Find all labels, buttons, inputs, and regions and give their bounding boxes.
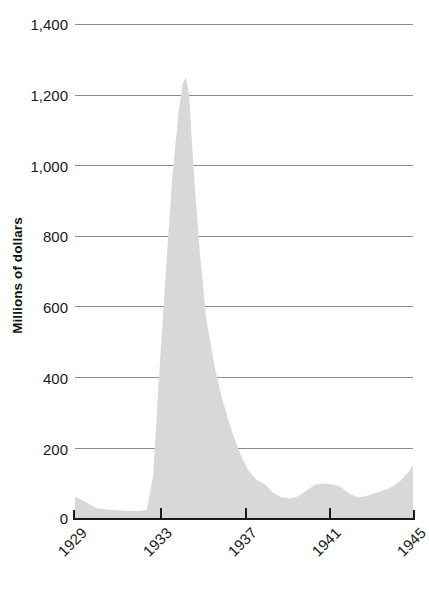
y-tick-label: 1,200 bbox=[6, 88, 68, 103]
plot-area bbox=[75, 24, 413, 518]
x-axis-end-cap bbox=[413, 510, 415, 520]
y-axis-tick-labels: 1,400 1,200 1,000 800 600 400 200 0 bbox=[0, 0, 68, 592]
y-tick-label: 400 bbox=[6, 371, 68, 386]
y-tick-label: 1,000 bbox=[6, 159, 68, 174]
y-tick-label: 1,400 bbox=[6, 17, 68, 32]
x-tick-label-1945: 1945 bbox=[362, 524, 429, 591]
y-tick-label: 0 bbox=[6, 511, 68, 526]
x-axis-line bbox=[73, 518, 415, 520]
area-series-path bbox=[75, 77, 413, 518]
x-tick-label-1933: 1933 bbox=[108, 524, 175, 591]
x-tick-mark-1941 bbox=[329, 508, 331, 519]
x-axis-start-cap bbox=[73, 510, 75, 520]
y-tick-label: 600 bbox=[6, 300, 68, 315]
x-tick-mark-1937 bbox=[245, 508, 247, 519]
x-tick-mark-1933 bbox=[160, 508, 162, 519]
area-series bbox=[75, 24, 413, 518]
y-tick-label: 800 bbox=[6, 229, 68, 244]
x-tick-label-1941: 1941 bbox=[277, 524, 344, 591]
x-tick-label-1937: 1937 bbox=[193, 524, 260, 591]
y-tick-label: 200 bbox=[6, 442, 68, 457]
